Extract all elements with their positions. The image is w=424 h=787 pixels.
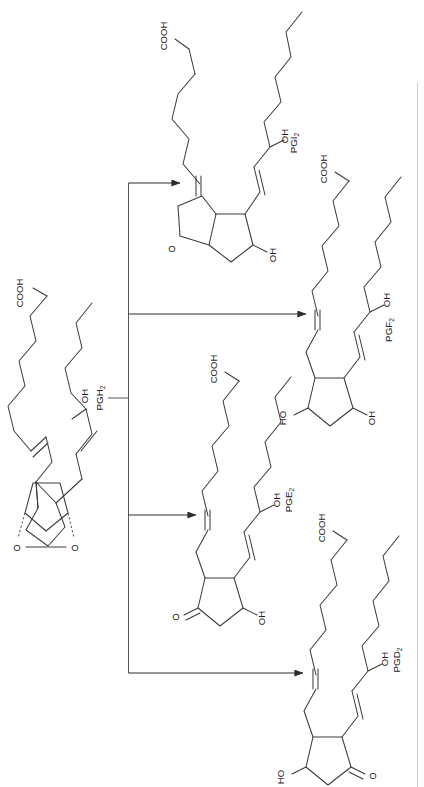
- pgd2-ho-label: HO: [275, 770, 286, 784]
- pgd2-cooh-label: COOH: [316, 514, 327, 543]
- pgh2-o-right-label: O: [71, 542, 78, 553]
- pgd2-oh-c15-label: OH: [379, 652, 390, 666]
- pgi2-cooh-label: COOH: [158, 22, 169, 51]
- pgi2-oh-ring-label: OH: [267, 248, 278, 262]
- pgd2-name-label: PGD2: [391, 647, 403, 672]
- pgf2-cooh-label: COOH: [318, 155, 329, 184]
- pgd2-cyclopentanone: [306, 737, 351, 785]
- reaction-scheme-figure: COOH OH O O PGH2 CO: [0, 0, 424, 787]
- pge2-cooh-label: COOH: [208, 355, 219, 384]
- structure-pgi2: COOH O OH OH PGI2: [158, 12, 302, 262]
- pgh2-dashed-bond-left: [18, 513, 25, 538]
- structure-pge2: COOH O OH OH PGE2: [172, 355, 295, 626]
- structure-pgh2: COOH OH O O PGH2: [8, 279, 106, 553]
- prostaglandin-pathway-svg: COOH OH O O PGH2 CO: [0, 0, 424, 787]
- pge2-name-label: PGE2: [283, 487, 295, 512]
- pgh2-name-label: PGH2: [94, 385, 106, 410]
- pge2-oh-c15-label: OH: [271, 493, 282, 507]
- pge2-ketone-o-label: O: [172, 611, 179, 622]
- pgh2-o-left-label: O: [13, 542, 20, 553]
- pgi2-ring-o-label: O: [168, 243, 175, 254]
- pgf2-name-label: PGF2: [383, 318, 395, 342]
- structure-pgd2: COOH HO O OH PGD2: [275, 514, 403, 785]
- pgf2-oh-ring-label: OH: [366, 411, 377, 425]
- pgf2-oh-c15-label: OH: [381, 293, 392, 307]
- pge2-oh-ring-label: OH: [256, 611, 267, 625]
- pge2-cyclopentanone: [198, 578, 243, 626]
- pgf2-cyclopentane: [308, 378, 353, 426]
- pgi2-cyclopentane: [209, 214, 253, 262]
- pgh2-cooh-label: COOH: [14, 279, 25, 308]
- pgh2-dashed-bond-right: [68, 513, 74, 538]
- structure-pgf2: COOH HO OH OH PGF2: [277, 155, 401, 426]
- pgh2-oh-label: OH: [79, 389, 90, 403]
- pgd2-ketone-o-label: O: [369, 770, 376, 781]
